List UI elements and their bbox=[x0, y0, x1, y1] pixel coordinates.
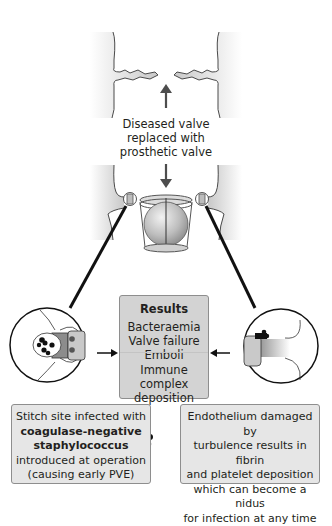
result-item: Immune complex bbox=[120, 363, 208, 391]
box-line: introduced at operation bbox=[12, 454, 150, 469]
box-line: turbulence results in fibrin bbox=[181, 439, 319, 468]
result-item: Bacteraemia bbox=[120, 320, 208, 334]
arrow-right-icon bbox=[97, 349, 118, 357]
box-line: Stitch site infected with bbox=[12, 410, 150, 425]
endothelium-box: Endothelium damaged by turbulence result… bbox=[180, 404, 320, 484]
caption-line: Diseased valve bbox=[100, 117, 232, 131]
stitch-infection-inset bbox=[10, 308, 85, 382]
box-line: and platelet deposition bbox=[181, 468, 319, 483]
down-arrow-icon bbox=[160, 164, 172, 188]
box-line: for infection at any time bbox=[181, 512, 319, 526]
top-caption: Diseased valve replaced with prosthetic … bbox=[100, 117, 232, 159]
results-title: Results bbox=[120, 302, 208, 316]
caption-line: replaced with bbox=[100, 131, 232, 145]
endothelium-inset bbox=[244, 309, 318, 383]
box-line: which can become a nidus bbox=[181, 483, 319, 512]
results-box: Results Bacteraemia Valve failure Emboli… bbox=[119, 295, 209, 399]
box-line-bold: coagulase-negative bbox=[12, 425, 150, 440]
box-line-bold: staphylococcus bbox=[12, 439, 150, 454]
box-line: (causing early PVE) bbox=[12, 468, 150, 483]
caption-line: prosthetic valve bbox=[100, 145, 232, 159]
result-item: Valve failure bbox=[120, 334, 208, 348]
stitch-infection-box: Stitch site infected with coagulase-nega… bbox=[11, 404, 151, 484]
box-line: Endothelium damaged by bbox=[181, 410, 319, 439]
result-item: Emboli bbox=[120, 348, 208, 362]
arrow-left-icon bbox=[210, 349, 230, 357]
up-arrow-icon bbox=[160, 84, 172, 108]
results-divider bbox=[120, 352, 208, 353]
